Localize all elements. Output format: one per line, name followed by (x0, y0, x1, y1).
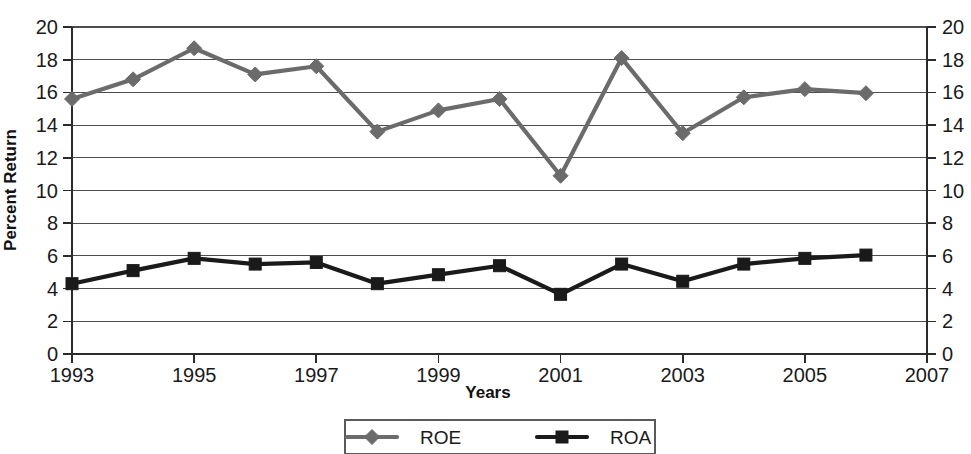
gridlines (72, 27, 927, 354)
right-y-axis-tick-label: 6 (942, 245, 953, 267)
y-axis-tick-label: 2 (47, 310, 58, 332)
chart-container: 02468101214161820 02468101214161820 1993… (0, 0, 971, 454)
data-point-marker (432, 269, 444, 281)
series-layer (65, 41, 874, 301)
data-point-marker (187, 41, 202, 56)
roe-roa-line-chart: 02468101214161820 02468101214161820 1993… (0, 0, 971, 454)
right-y-axis-tick-label: 0 (942, 343, 953, 365)
x-axis-title: Years (465, 383, 510, 402)
y-axis-tick-label: 0 (47, 343, 58, 365)
data-point-marker (310, 256, 322, 268)
y-axis-tick-label: 6 (47, 245, 58, 267)
data-point-marker (555, 288, 567, 300)
data-point-marker (248, 67, 263, 82)
data-point-marker (127, 265, 139, 277)
right-y-axis-tick-label: 12 (942, 147, 964, 169)
x-axis-tick-label: 1995 (172, 364, 217, 386)
data-point-marker (431, 103, 446, 118)
series-roa (66, 249, 872, 300)
y-axis-title: Percent Return (1, 129, 20, 251)
data-point-marker (66, 278, 78, 290)
data-point-marker (799, 252, 811, 264)
right-y-axis-tick-label: 8 (942, 212, 953, 234)
right-y-axis-tick-label: 18 (942, 49, 964, 71)
left-y-axis: 02468101214161820 (36, 16, 72, 365)
right-y-axis-tick-label: 20 (942, 16, 964, 38)
y-axis-tick-label: 12 (36, 147, 58, 169)
x-axis: 19931995199719992001200320052007 (50, 354, 950, 386)
y-axis-tick-label: 20 (36, 16, 58, 38)
legend-diamond-icon (365, 430, 380, 445)
data-point-marker (738, 258, 750, 270)
right-y-axis-tick-label: 4 (942, 278, 953, 300)
data-point-marker (860, 249, 872, 261)
series-roe (65, 41, 874, 184)
data-point-marker (65, 91, 80, 106)
x-axis-tick-label: 1999 (416, 364, 461, 386)
right-y-axis-tick-label: 16 (942, 81, 964, 103)
y-axis-tick-label: 16 (36, 81, 58, 103)
x-axis-tick-label: 2007 (905, 364, 950, 386)
data-point-marker (797, 82, 812, 97)
x-axis-tick-label: 2001 (538, 364, 583, 386)
data-point-marker (126, 72, 141, 87)
data-point-marker (858, 86, 873, 101)
legend: ROEROA (345, 420, 655, 454)
legend-square-icon (556, 431, 568, 443)
legend-item-roe[interactable]: ROE (347, 427, 461, 448)
y-axis-tick-label: 8 (47, 212, 58, 234)
legend-item-roa[interactable]: ROA (537, 427, 652, 448)
data-point-marker (249, 258, 261, 270)
y-axis-tick-label: 18 (36, 49, 58, 71)
data-point-marker (677, 275, 689, 287)
legend-label: ROA (610, 427, 652, 448)
data-point-marker (494, 260, 506, 272)
x-axis-tick-label: 2005 (783, 364, 828, 386)
data-point-marker (188, 252, 200, 264)
right-y-axis-tick-label: 14 (942, 114, 964, 136)
legend-label: ROE (420, 427, 461, 448)
x-axis-tick-label: 1997 (294, 364, 339, 386)
y-axis-tick-label: 4 (47, 278, 58, 300)
data-point-marker (371, 278, 383, 290)
y-axis-tick-label: 14 (36, 114, 58, 136)
y-axis-tick-label: 10 (36, 180, 58, 202)
right-y-axis: 02468101214161820 (927, 16, 964, 365)
data-point-marker (616, 258, 628, 270)
right-y-axis-tick-label: 2 (942, 310, 953, 332)
x-axis-tick-label: 1993 (50, 364, 95, 386)
x-axis-tick-label: 2003 (660, 364, 705, 386)
series-line-roe (72, 48, 866, 176)
right-y-axis-tick-label: 10 (942, 180, 964, 202)
